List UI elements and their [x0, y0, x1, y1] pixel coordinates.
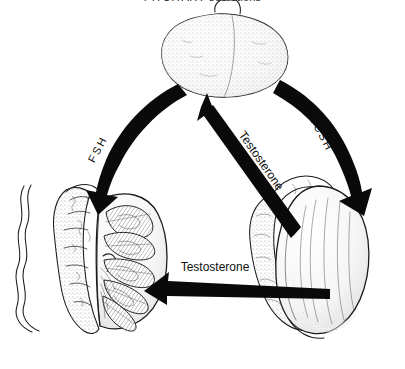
diagram-svg: FSH ICSH Testosterone Testosterone [0, 0, 405, 369]
pituitary-gland[interactable] [162, 0, 288, 97]
diagram-canvas: PITUITARY secretions [0, 0, 405, 369]
testosterone-feedback-arrow[interactable] [197, 93, 301, 238]
fsh-label: FSH [85, 134, 109, 165]
testosterone-local-label: Testosterone [181, 260, 250, 274]
vas-deferens [16, 185, 39, 332]
testis-cross-section[interactable] [16, 185, 167, 334]
